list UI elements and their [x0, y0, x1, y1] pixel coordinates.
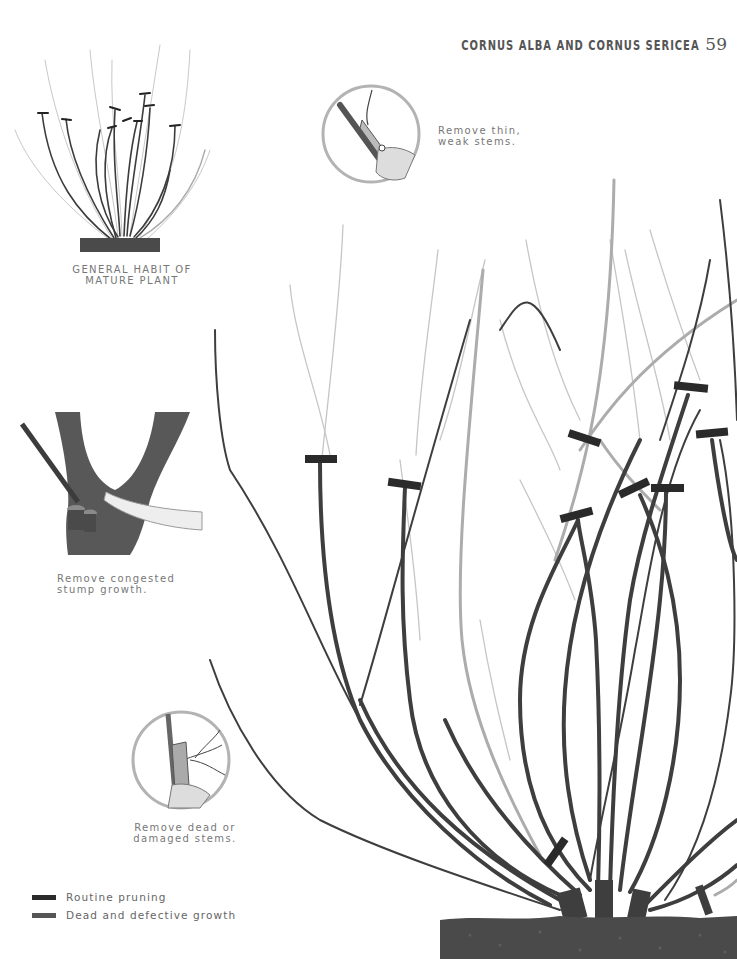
dead-stems-caption-line1: Remove dead or — [120, 822, 250, 833]
thin-stems-caption-line1: Remove thin, — [438, 125, 521, 136]
habit-caption-line2: MATURE PLANT — [52, 275, 212, 286]
main-shrub-illustration — [210, 180, 737, 959]
routine-pruning-swatch-icon — [32, 895, 56, 900]
legend-item-dead-defective: Dead and defective growth — [32, 906, 236, 924]
stump-detail-illustration — [22, 412, 202, 555]
legend-item-routine-pruning: Routine pruning — [32, 888, 236, 906]
dead-stems-caption-line2: damaged stems. — [120, 833, 250, 844]
mature-plant-habit-illustration — [15, 45, 210, 252]
legend-label: Routine pruning — [66, 891, 166, 903]
habit-caption: GENERAL HABIT OF MATURE PLANT — [52, 264, 212, 286]
pruning-illustration — [0, 0, 737, 959]
soil-block — [440, 916, 737, 959]
legend-label: Dead and defective growth — [66, 909, 236, 921]
thin-stems-detail-illustration — [323, 86, 419, 182]
thin-stems-caption: Remove thin, weak stems. — [438, 125, 521, 147]
habit-soil-block — [80, 238, 160, 252]
dead-stems-caption: Remove dead or damaged stems. — [120, 822, 250, 844]
stump-caption-line2: stump growth. — [57, 584, 175, 595]
dead-growth-swatch-icon — [32, 913, 56, 918]
habit-caption-line1: GENERAL HABIT OF — [52, 264, 212, 275]
stump-caption: Remove congested stump growth. — [57, 573, 175, 595]
legend: Routine pruning Dead and defective growt… — [32, 888, 236, 924]
dead-stems-detail-illustration — [133, 712, 229, 808]
thin-stems-caption-line2: weak stems. — [438, 136, 521, 147]
stump-caption-line1: Remove congested — [57, 573, 175, 584]
